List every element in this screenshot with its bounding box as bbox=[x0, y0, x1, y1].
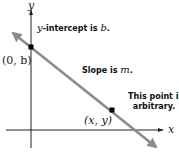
slope-annotation-period: . bbox=[130, 66, 133, 75]
x-axis-label: x bbox=[168, 124, 174, 135]
arbitrary-point-label: (x, y) bbox=[84, 115, 112, 126]
arbitrary-point bbox=[110, 108, 115, 113]
arbitrary-annotation: This point is arbitrary. bbox=[128, 92, 179, 112]
intercept-annotation-period: . bbox=[107, 24, 110, 33]
intercept-point-label: (0, b) bbox=[2, 55, 32, 66]
arbitrary-annotation-line2: arbitrary. bbox=[128, 102, 179, 112]
arbitrary-annotation-line1: This point is bbox=[128, 92, 179, 102]
intercept-annotation-text: -intercept is bbox=[43, 24, 101, 33]
intercept-point bbox=[29, 45, 34, 50]
slope-annotation: Slope is m. bbox=[82, 65, 133, 75]
slope-annotation-var-m: m bbox=[120, 64, 129, 75]
slope-intercept-diagram: y x y-intercept is b. (0, b) Slope is m.… bbox=[0, 0, 179, 158]
slope-annotation-text: Slope is bbox=[82, 66, 120, 75]
intercept-annotation: y-intercept is b. bbox=[37, 23, 110, 33]
y-axis-label: y bbox=[28, 0, 34, 11]
